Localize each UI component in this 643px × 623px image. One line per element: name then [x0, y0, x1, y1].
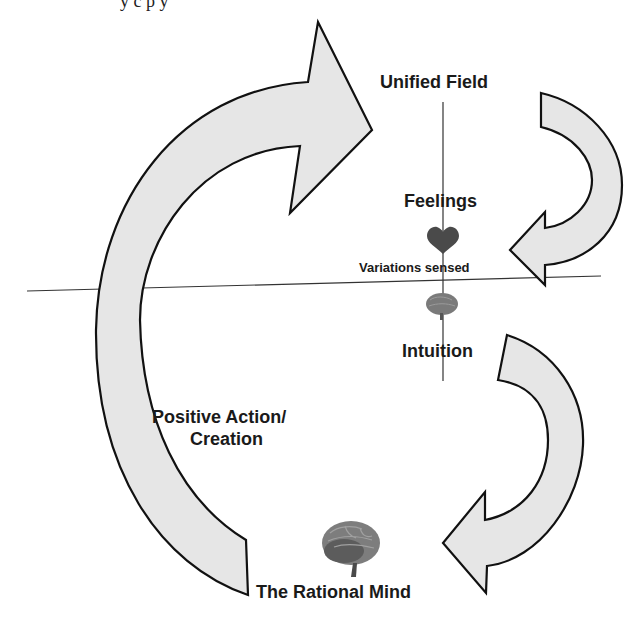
positive-action-label: Positive Action/	[152, 408, 286, 426]
variations-sensed-label: Variations sensed	[359, 261, 470, 274]
creation-label: Creation	[190, 430, 263, 448]
intuition-label: Intuition	[402, 342, 473, 360]
unified-field-label: Unified Field	[380, 73, 488, 91]
brain-icon	[322, 521, 380, 577]
rational-mind-label: The Rational Mind	[256, 583, 411, 601]
feelings-label: Feelings	[404, 192, 477, 210]
cycle-diagram	[0, 0, 643, 623]
bottom-right-curved-arrow	[443, 335, 583, 593]
large-curved-arrow	[96, 22, 372, 595]
top-right-curved-arrow	[510, 93, 622, 285]
brain-icon	[426, 293, 458, 320]
